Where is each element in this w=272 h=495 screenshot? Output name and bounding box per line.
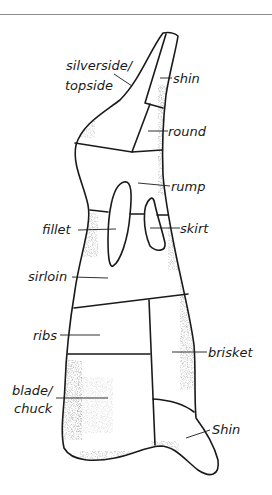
brisket-divider: [149, 300, 155, 445]
sirloin-ribs-divider: [74, 294, 188, 308]
label-ribs: ribs: [33, 328, 57, 343]
label-chuck: chuck: [14, 401, 53, 416]
sirloin-top-divider-left: [90, 210, 108, 212]
label-brisket: brisket: [208, 345, 254, 360]
beef-cuts-diagram: silverside/ topside shin round rump fill…: [0, 0, 272, 495]
leader-fillet: [78, 229, 116, 230]
skirt-shape: [144, 198, 165, 250]
round-divider: [132, 104, 150, 152]
rump-top-divider: [75, 143, 162, 152]
label-topside: topside: [65, 78, 113, 93]
label-skirt: skirt: [180, 221, 209, 236]
label-round: round: [168, 124, 207, 139]
brisket-shin-divider: [153, 399, 194, 412]
label-shin-top: shin: [173, 71, 200, 86]
label-silverside: silverside/: [66, 58, 134, 73]
label-blade: blade/: [12, 383, 54, 398]
leader-rump: [138, 183, 170, 186]
label-shin-bottom: Shin: [212, 422, 240, 437]
label-sirloin: sirloin: [28, 269, 67, 284]
label-fillet: fillet: [42, 222, 72, 237]
label-rump: rump: [171, 179, 206, 194]
fillet-shape: [108, 182, 131, 266]
leader-silverside: [114, 74, 132, 86]
